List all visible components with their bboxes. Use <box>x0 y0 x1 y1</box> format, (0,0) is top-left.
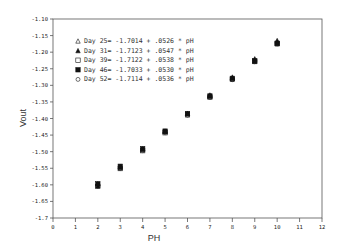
legend-label: Day 39= -1.7122 + .0538 * pH <box>84 56 194 64</box>
y-tick-label: -1.7 <box>35 215 48 221</box>
x-tick-label: 6 <box>186 224 189 230</box>
legend-item: Day 46= -1.7033 + .0530 * pH <box>76 66 194 74</box>
x-tick-label: 10 <box>274 224 281 230</box>
circle-open-icon <box>76 77 80 81</box>
legend-label: Day 46= -1.7033 + .0530 * pH <box>84 66 194 74</box>
y-tick-label: -1.65 <box>31 198 48 204</box>
legend-item: Day 52= -1.7114 + .0536 * pH <box>76 75 194 83</box>
legend-item: Day 31= -1.7123 + .0547 * pH <box>76 47 194 55</box>
legend: Day 25= -1.7014 + .0526 * pHDay 31= -1.7… <box>76 37 194 83</box>
y-tick-label: -1.20 <box>31 49 48 55</box>
triangle-open-icon <box>76 39 80 43</box>
x-tick-label: 11 <box>296 224 303 230</box>
x-tick-label: 1 <box>74 224 77 230</box>
x-tick-label: 8 <box>231 224 234 230</box>
x-tick-label: 0 <box>51 224 54 230</box>
y-tick-label: -1.40 <box>31 116 48 122</box>
x-tick-label: 2 <box>96 224 99 230</box>
y-tick-label: -1.35 <box>31 99 48 105</box>
legend-item: Day 39= -1.7122 + .0538 * pH <box>76 56 194 64</box>
x-tick-label: 5 <box>163 224 166 230</box>
x-tick-label: 9 <box>253 224 256 230</box>
y-tick-label: -1.50 <box>31 149 48 155</box>
triangle-filled-icon <box>76 48 80 52</box>
y-tick-label: -1.25 <box>31 66 48 72</box>
legend-label: Day 31= -1.7123 + .0547 * pH <box>84 47 194 55</box>
square-filled-icon <box>76 68 80 72</box>
scatter-chart: 0123456789101112 -1.10-1.15-1.20-1.25-1.… <box>0 0 341 249</box>
x-tick-label: 4 <box>141 224 145 230</box>
legend-item: Day 25= -1.7014 + .0526 * pH <box>76 37 194 45</box>
x-axis: 0123456789101112 <box>51 218 325 230</box>
x-axis-title: PH <box>148 233 161 243</box>
x-tick-label: 3 <box>119 224 122 230</box>
y-tick-label: -1.55 <box>31 165 48 171</box>
y-tick-label: -1.60 <box>31 182 48 188</box>
y-tick-label: -1.15 <box>31 33 48 39</box>
x-tick-label: 12 <box>319 224 326 230</box>
y-tick-label: -1.45 <box>31 132 48 138</box>
x-tick-label: 7 <box>208 224 211 230</box>
y-axis-title: Vout <box>18 108 28 127</box>
y-tick-label: -1.10 <box>31 16 48 22</box>
legend-label: Day 25= -1.7014 + .0526 * pH <box>84 37 194 45</box>
y-axis: -1.10-1.15-1.20-1.25-1.30-1.35-1.40-1.45… <box>31 16 53 221</box>
legend-label: Day 52= -1.7114 + .0536 * pH <box>84 75 194 83</box>
square-open-icon <box>76 58 80 62</box>
y-tick-label: -1.30 <box>31 82 48 88</box>
